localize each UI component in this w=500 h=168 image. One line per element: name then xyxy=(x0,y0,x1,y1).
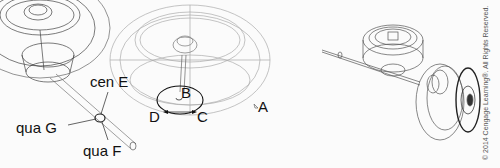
label-c: C xyxy=(197,109,208,124)
copyright-notice: © 2014 Cengage Learning®. All Rights Res… xyxy=(482,6,489,160)
label-qua-f: qua F xyxy=(83,143,121,158)
wireframe-drawing xyxy=(0,0,500,168)
cad-figure: cen E qua G qua F B C D A © 2014 Cengage… xyxy=(0,0,500,168)
label-cen-e: cen E xyxy=(90,74,128,89)
label-qua-g: qua G xyxy=(16,120,57,135)
label-d: D xyxy=(149,109,160,124)
label-b: B xyxy=(181,85,191,100)
label-a: A xyxy=(258,99,268,114)
